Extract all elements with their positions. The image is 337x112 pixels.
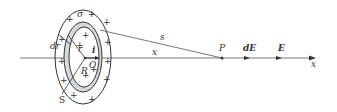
center-point-O [84, 57, 87, 60]
label-O: O [89, 60, 97, 70]
svg-text:+: + [103, 74, 111, 84]
label-dE: dE [243, 43, 256, 53]
label-P: P [218, 43, 226, 53]
svg-text:+: + [60, 75, 68, 85]
label-i: i [92, 45, 96, 55]
E-arrow-icon [276, 56, 282, 60]
svg-text:+: + [70, 90, 78, 100]
svg-text:+: + [58, 56, 66, 66]
svg-text:+: + [104, 37, 112, 47]
svg-text:+: + [88, 9, 96, 19]
svg-text:+: + [103, 17, 111, 27]
svg-text:+: + [82, 30, 90, 40]
label-E: E [277, 43, 285, 53]
label-x-axis: x [311, 59, 316, 69]
dE-arrow-icon [244, 56, 250, 60]
label-R: R [80, 66, 88, 76]
label-r: r [78, 44, 83, 54]
svg-text:+: + [88, 94, 96, 104]
svg-text:+: + [66, 14, 74, 24]
point-P [221, 57, 224, 60]
label-s: s [160, 32, 165, 42]
svg-text:+: + [104, 56, 112, 66]
label-x-distance: x [152, 47, 157, 57]
label-S: S [59, 95, 65, 105]
disk-field-diagram: +++ ++ ++ ++ ++ ++ ++ σ dr r i O R S s x… [0, 0, 337, 112]
label-sigma: σ [77, 9, 84, 19]
label-dr: dr [50, 41, 61, 51]
